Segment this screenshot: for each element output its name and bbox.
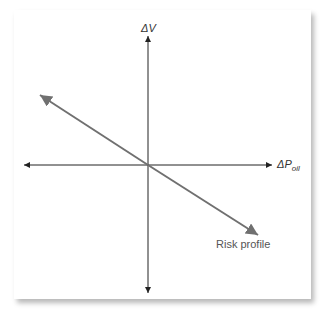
x-axis-label: ΔPoil — [277, 158, 300, 170]
risk-profile-label: Risk profile — [216, 238, 270, 250]
risk-profile-line-upper — [40, 95, 148, 165]
x-axis-label-sub: oil — [292, 164, 300, 173]
x-axis-label-main: ΔP — [277, 158, 292, 170]
y-axis-label: ΔV — [141, 22, 156, 34]
risk-profile-line-lower — [148, 165, 258, 235]
